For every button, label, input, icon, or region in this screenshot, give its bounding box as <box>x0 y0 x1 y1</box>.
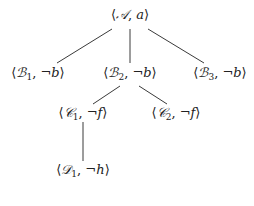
separator: , <box>124 65 132 80</box>
node-d1: ⟨𝒟1, ¬h⟩ <box>56 162 109 178</box>
tree-edges <box>0 0 254 206</box>
close-angle: ⟩ <box>60 65 65 80</box>
node-b3: ⟨ℬ3, ¬b⟩ <box>193 65 246 80</box>
edge-a-b1 <box>57 29 112 63</box>
separator: , <box>77 162 85 177</box>
close-angle: ⟩ <box>242 65 247 80</box>
argument-set: ℬ <box>198 65 208 80</box>
argument-set: ℬ <box>16 65 26 80</box>
node-c2: ⟨𝒞2, ¬f⟩ <box>152 105 201 121</box>
close-angle: ⟩ <box>152 65 157 80</box>
edge-b2-c2 <box>139 86 167 104</box>
claim-literal: ¬h <box>85 162 104 177</box>
edge-a-b3 <box>148 29 204 63</box>
claim-literal: ¬b <box>222 65 241 80</box>
node-c1: ⟨𝒞1, ¬f⟩ <box>59 105 108 121</box>
claim-literal: ¬b <box>40 65 59 80</box>
separator: , <box>32 65 40 80</box>
close-angle: ⟩ <box>102 105 107 120</box>
edge-b2-c1 <box>93 86 120 104</box>
close-angle: ⟩ <box>195 105 200 120</box>
close-angle: ⟩ <box>105 162 110 177</box>
claim-literal: ¬f <box>180 105 196 120</box>
claim-literal: ¬f <box>87 105 103 120</box>
separator: , <box>214 65 222 80</box>
separator: , <box>78 105 86 120</box>
argument-set: 𝒞 <box>157 105 166 120</box>
claim-literal: a <box>136 7 144 22</box>
close-angle: ⟩ <box>144 7 149 22</box>
argument-set: 𝒜 <box>116 7 128 22</box>
argument-set: 𝒟 <box>61 162 71 177</box>
node-a: ⟨𝒜, a⟩ <box>111 7 149 23</box>
argument-set: ℬ <box>108 65 118 80</box>
argument-set: 𝒞 <box>64 105 73 120</box>
node-b1: ⟨ℬ1, ¬b⟩ <box>11 65 64 80</box>
separator: , <box>171 105 179 120</box>
node-b2: ⟨ℬ2, ¬b⟩ <box>103 65 156 80</box>
claim-literal: ¬b <box>132 65 151 80</box>
